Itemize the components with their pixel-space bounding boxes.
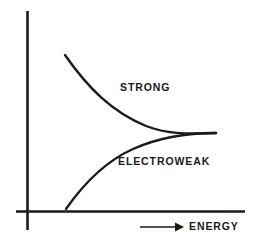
strong-coupling-curve [65, 55, 216, 133]
strong-curve-label: STRONG [120, 82, 170, 93]
figure-canvas: STRONG ELECTROWEAK ENERGY [0, 0, 260, 242]
x-axis-label: ENERGY [189, 221, 239, 232]
energy-arrow-head-icon [175, 223, 184, 232]
electroweak-curve-label: ELECTROWEAK [118, 156, 210, 167]
electroweak-coupling-curve [66, 133, 216, 209]
plot-area [0, 0, 260, 242]
